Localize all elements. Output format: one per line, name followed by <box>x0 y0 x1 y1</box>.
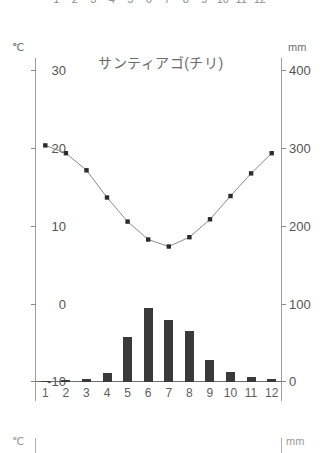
neighbor-bottom-right-axis <box>281 438 282 453</box>
temperature-point-10 <box>228 194 232 198</box>
temperature-point-6 <box>146 237 150 241</box>
temperature-point-8 <box>187 235 191 239</box>
temperature-line <box>45 145 271 246</box>
neighbor-bottom-left-unit: ℃ <box>12 435 24 448</box>
temperature-point-1 <box>43 143 47 147</box>
climate-diagram-page: 1 2 3 4 5 6 7 8 9 10 11 12 ℃ mm サンティアゴ(チ… <box>0 0 322 453</box>
x-axis-month-labels: 1 2 3 4 5 6 7 8 9 10 11 12 <box>35 384 282 402</box>
x-month-10: 10 <box>220 384 241 402</box>
neighbor-top-month-11: 11 <box>232 0 251 7</box>
neighbor-top-month-12: 12 <box>251 0 270 7</box>
x-month-3: 3 <box>76 384 97 402</box>
neighbor-top-month-2: 2 <box>66 0 85 7</box>
x-month-11: 11 <box>241 384 262 402</box>
neighbor-top-month-9: 9 <box>195 0 214 7</box>
x-month-6: 6 <box>138 384 159 402</box>
temperature-point-11 <box>249 171 253 175</box>
x-month-5: 5 <box>117 384 138 402</box>
neighbor-top-month-6: 6 <box>140 0 159 7</box>
climograph-plot: ℃ mm サンティアゴ(チリ) 30 20 10 0 -10 400 300 2… <box>0 38 322 432</box>
temperature-line-chart <box>0 38 322 432</box>
neighbor-top-month-4: 4 <box>103 0 122 7</box>
x-month-1: 1 <box>35 384 56 402</box>
temperature-point-4 <box>105 195 109 199</box>
neighbor-chart-bottom-crop: ℃ mm <box>0 432 322 453</box>
neighbor-bottom-left-axis <box>35 438 36 453</box>
neighbor-top-month-labels: 1 2 3 4 5 6 7 8 9 10 11 12 <box>47 0 269 7</box>
x-month-9: 9 <box>200 384 221 402</box>
temperature-point-12 <box>270 151 274 155</box>
neighbor-top-month-3: 3 <box>84 0 103 7</box>
x-month-12: 12 <box>261 384 282 402</box>
neighbor-top-month-10: 10 <box>214 0 233 7</box>
neighbor-chart-top-crop: 1 2 3 4 5 6 7 8 9 10 11 12 <box>0 0 322 14</box>
temperature-point-2 <box>64 151 68 155</box>
neighbor-bottom-right-unit: mm <box>286 435 304 447</box>
x-month-8: 8 <box>179 384 200 402</box>
neighbor-top-month-1: 1 <box>47 0 66 7</box>
temperature-point-9 <box>208 217 212 221</box>
neighbor-top-month-7: 7 <box>158 0 177 7</box>
neighbor-top-month-8: 8 <box>177 0 196 7</box>
x-month-7: 7 <box>158 384 179 402</box>
temperature-point-7 <box>167 244 171 248</box>
x-month-2: 2 <box>56 384 77 402</box>
neighbor-top-month-5: 5 <box>121 0 140 7</box>
temperature-point-3 <box>84 168 88 172</box>
x-month-4: 4 <box>97 384 118 402</box>
temperature-point-5 <box>125 219 129 223</box>
